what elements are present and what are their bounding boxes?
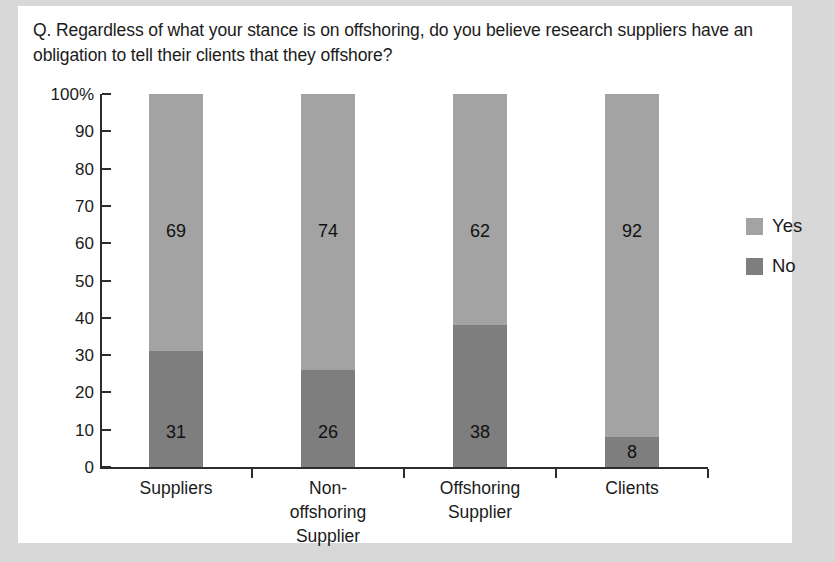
bar-segment-no[interactable]: 31 — [149, 351, 203, 467]
x-axis-category-label-line: Supplier — [253, 524, 403, 548]
bar-stack[interactable]: 6238 — [453, 94, 507, 467]
y-axis-tick-label: 40 — [75, 310, 94, 327]
bar-stack[interactable]: 928 — [605, 94, 659, 467]
chart-legend: YesNo — [746, 206, 835, 286]
x-axis-category-label-line: Offshoring — [405, 476, 555, 500]
bar-segment-no[interactable]: 26 — [301, 370, 355, 467]
x-axis-category-label-line: Non- — [253, 476, 403, 500]
bar-value-label-yes: 74 — [301, 222, 355, 240]
bar-value-label-no: 31 — [149, 423, 203, 441]
y-axis-tick-label: 0 — [85, 459, 94, 476]
x-axis-category-label-line: offshoring — [253, 500, 403, 524]
x-axis-category-label: Clients — [557, 476, 707, 500]
x-axis-category-label-line: Suppliers — [101, 476, 251, 500]
chart-question-title: Q. Regardless of what your stance is on … — [33, 18, 753, 68]
y-axis-tick — [102, 280, 111, 282]
plot-area: 693174266238928 — [100, 94, 708, 469]
y-axis-tick-label: 90 — [75, 123, 94, 140]
y-axis-tick-label: 70 — [75, 198, 94, 215]
legend-item-no[interactable]: No — [746, 246, 835, 286]
y-axis-tick-label: 10 — [75, 422, 94, 439]
y-axis-tick — [102, 391, 111, 393]
bar-segment-yes[interactable]: 69 — [149, 94, 203, 351]
y-axis-tick — [102, 130, 111, 132]
y-axis-tick — [102, 242, 111, 244]
bar-value-label-yes: 69 — [149, 222, 203, 240]
bar-value-label-no: 8 — [605, 443, 659, 461]
y-axis-tick — [102, 168, 111, 170]
y-axis-tick — [102, 354, 111, 356]
y-axis-tick — [102, 317, 111, 319]
y-axis-tick — [102, 93, 111, 95]
bar-value-label-no: 38 — [453, 423, 507, 441]
bar-stack[interactable]: 6931 — [149, 94, 203, 467]
y-axis-tick-label: 60 — [75, 235, 94, 252]
y-axis-labels: 100%9080706050403020100 — [18, 94, 94, 469]
bar-stack[interactable]: 7426 — [301, 94, 355, 467]
y-axis-tick-label: 20 — [75, 384, 94, 401]
y-axis-tick — [102, 205, 111, 207]
x-axis-category-labels: SuppliersNon-offshoringSupplierOffshorin… — [100, 476, 708, 542]
screenshot-root: Q. Regardless of what your stance is on … — [0, 0, 835, 562]
y-axis-tick-label: 100% — [51, 86, 94, 103]
chart-card: Q. Regardless of what your stance is on … — [18, 6, 792, 543]
legend-item-yes[interactable]: Yes — [746, 206, 835, 246]
x-axis-category-label-line: Supplier — [405, 500, 555, 524]
x-axis-category-label: Suppliers — [101, 476, 251, 500]
bar-segment-no[interactable]: 38 — [453, 325, 507, 467]
x-axis-category-label-line: Clients — [557, 476, 707, 500]
bar-segment-no[interactable]: 8 — [605, 437, 659, 467]
y-axis-tick — [102, 429, 111, 431]
legend-swatch-icon — [746, 218, 763, 235]
bar-segment-yes[interactable]: 62 — [453, 94, 507, 325]
legend-swatch-icon — [746, 258, 763, 275]
y-axis-tick-label: 30 — [75, 347, 94, 364]
legend-label: Yes — [772, 217, 802, 236]
x-axis-category-label: Non-offshoringSupplier — [253, 476, 403, 548]
bar-segment-yes[interactable]: 74 — [301, 94, 355, 370]
bar-value-label-yes: 62 — [453, 222, 507, 240]
x-axis-category-label: OffshoringSupplier — [405, 476, 555, 524]
y-axis-tick-label: 80 — [75, 161, 94, 178]
bar-value-label-no: 26 — [301, 423, 355, 441]
legend-label: No — [772, 257, 796, 276]
bar-segment-yes[interactable]: 92 — [605, 94, 659, 437]
bar-value-label-yes: 92 — [605, 222, 659, 240]
y-axis-tick-label: 50 — [75, 273, 94, 290]
y-axis-tick — [102, 466, 111, 468]
